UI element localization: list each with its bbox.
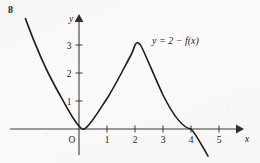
y-axis-arrow-icon — [75, 14, 84, 22]
x-axis-arrow-icon — [236, 125, 244, 134]
x-tick-label-4: 4 — [189, 135, 194, 145]
x-tick-label-3: 3 — [161, 135, 166, 145]
y-tick-label-1: 1 — [67, 97, 72, 107]
x-tick-label-1: 1 — [105, 135, 110, 145]
equation-label: y = 2 − f(x) — [152, 36, 199, 46]
equation-text: y = 2 − f(x) — [152, 35, 199, 46]
figure-container: 8 1 2 3 4 5 1 2 3 O y x — [0, 0, 260, 163]
x-tick-label-2: 2 — [133, 135, 138, 145]
y-tick-label-3: 3 — [67, 41, 72, 51]
y-axis-label: y — [68, 14, 74, 24]
x-tick-label-5: 5 — [217, 135, 222, 145]
x-axis-label: x — [244, 134, 250, 144]
y-tick-label-2: 2 — [67, 69, 72, 79]
graph-plot: 1 2 3 4 5 1 2 3 O y x — [0, 0, 260, 163]
origin-label: O — [69, 135, 76, 145]
